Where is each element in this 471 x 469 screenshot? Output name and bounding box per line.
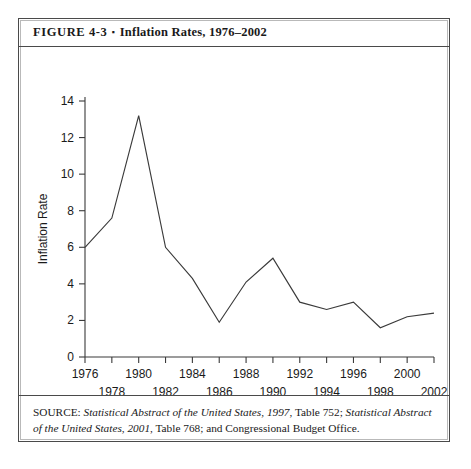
inflation-rate-line bbox=[85, 116, 434, 328]
source-prefix: SOURCE: bbox=[33, 406, 84, 418]
figure-panel: FIGURE 4-3▪Inflation Rates, 1976–2002 02… bbox=[18, 18, 450, 442]
y-tick-label: 14 bbox=[61, 94, 75, 108]
figure-number: FIGURE 4-3 bbox=[33, 25, 107, 39]
figure-caption: FIGURE 4-3▪Inflation Rates, 1976–2002 bbox=[33, 25, 267, 40]
figure-header: FIGURE 4-3▪Inflation Rates, 1976–2002 bbox=[19, 19, 449, 47]
x-tick-label: 1996 bbox=[340, 367, 367, 381]
y-tick-label: 12 bbox=[61, 131, 75, 145]
y-tick-label: 10 bbox=[61, 167, 75, 181]
source-table-2: , Table 768; and Congressional Budget Of… bbox=[150, 422, 360, 434]
x-tick-label: 1976 bbox=[72, 367, 99, 381]
x-tick-label: 1992 bbox=[286, 367, 313, 381]
figure-footer: SOURCE: Statistical Abstract of the Unit… bbox=[19, 395, 449, 441]
y-tick-label: 0 bbox=[67, 350, 74, 364]
y-tick-label: 4 bbox=[67, 277, 74, 291]
source-note: SOURCE: Statistical Abstract of the Unit… bbox=[33, 404, 435, 437]
y-tick-label: 2 bbox=[67, 313, 74, 327]
x-tick-label: 1988 bbox=[233, 367, 260, 381]
chart-plot-area: 0246810121419761978198019821984198619881… bbox=[19, 47, 449, 397]
source-citation-1: Statistical Abstract of the United State… bbox=[84, 406, 290, 418]
y-tick-label: 8 bbox=[67, 204, 74, 218]
figure-title: Inflation Rates, 1976–2002 bbox=[120, 25, 267, 39]
y-tick-label: 6 bbox=[67, 240, 74, 254]
x-tick-label: 2000 bbox=[394, 367, 421, 381]
y-axis-title: Inflation Rate bbox=[36, 193, 50, 264]
inflation-line-chart: 0246810121419761978198019821984198619881… bbox=[19, 47, 449, 397]
source-table-1: , Table 752; bbox=[290, 406, 346, 418]
bullet-icon: ▪ bbox=[111, 27, 114, 37]
x-tick-label: 1984 bbox=[179, 367, 206, 381]
x-tick-label: 1980 bbox=[125, 367, 152, 381]
